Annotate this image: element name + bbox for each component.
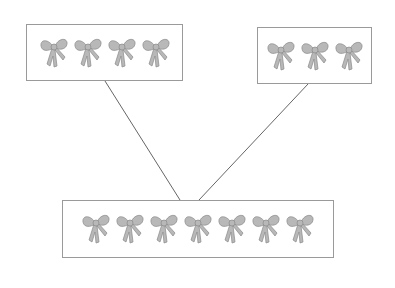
connector-left-to-whole bbox=[105, 81, 180, 200]
ribbon-bow-icon bbox=[107, 36, 137, 70]
ribbon-bow-icon bbox=[285, 212, 315, 246]
ribbon-bow-icon bbox=[81, 212, 111, 246]
ribbon-bow-icon bbox=[115, 212, 145, 246]
bow-group bbox=[37, 36, 173, 70]
ribbon-bow-icon bbox=[73, 36, 103, 70]
whole-box bbox=[62, 200, 334, 258]
bow-group bbox=[79, 212, 317, 246]
ribbon-bow-icon bbox=[183, 212, 213, 246]
ribbon-bow-icon bbox=[141, 36, 171, 70]
ribbon-bow-icon bbox=[266, 39, 296, 73]
ribbon-bow-icon bbox=[217, 212, 247, 246]
right-part-box bbox=[257, 27, 372, 84]
ribbon-bow-icon bbox=[39, 36, 69, 70]
ribbon-bow-icon bbox=[300, 39, 330, 73]
ribbon-bow-icon bbox=[334, 39, 364, 73]
bow-group bbox=[264, 39, 366, 73]
left-part-box bbox=[26, 24, 183, 81]
ribbon-bow-icon bbox=[149, 212, 179, 246]
ribbon-bow-icon bbox=[251, 212, 281, 246]
connector-right-to-whole bbox=[199, 84, 308, 200]
